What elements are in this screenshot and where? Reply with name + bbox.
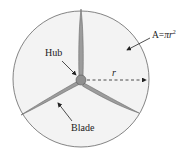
wind-turbine-diagram: r Hub A=πr2 Blade — [0, 0, 194, 156]
blade-label: Blade — [71, 122, 95, 133]
hub-label: Hub — [45, 47, 62, 58]
radius-label: r — [112, 67, 116, 78]
hub — [76, 75, 86, 85]
area-formula-label: A=πr2 — [152, 29, 176, 40]
